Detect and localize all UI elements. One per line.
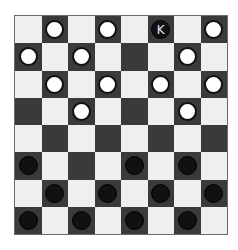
square-r5-c4[interactable]: [121, 152, 148, 179]
square-r3-c5: [148, 98, 175, 125]
white-piece[interactable]: [204, 75, 223, 94]
white-piece[interactable]: [72, 47, 91, 66]
white-piece[interactable]: [204, 20, 223, 39]
square-r5-c3: [95, 152, 122, 179]
square-r3-c0[interactable]: [15, 98, 42, 125]
square-r4-c2: [68, 125, 95, 152]
square-r7-c2[interactable]: [68, 207, 95, 234]
square-r1-c6[interactable]: [174, 43, 201, 70]
black-piece[interactable]: [45, 184, 64, 203]
square-r0-c3[interactable]: [95, 16, 122, 43]
white-piece[interactable]: [45, 75, 64, 94]
square-r2-c4: [121, 71, 148, 98]
white-piece[interactable]: [98, 20, 117, 39]
black-piece[interactable]: [125, 156, 144, 175]
square-r0-c6: [174, 16, 201, 43]
square-r4-c7[interactable]: [201, 125, 228, 152]
square-r6-c6: [174, 180, 201, 207]
square-r0-c7[interactable]: [201, 16, 228, 43]
square-r2-c6: [174, 71, 201, 98]
square-r6-c4: [121, 180, 148, 207]
black-piece[interactable]: [178, 211, 197, 230]
square-r7-c5: [148, 207, 175, 234]
square-r1-c1: [42, 43, 69, 70]
black-piece[interactable]: [125, 211, 144, 230]
black-piece[interactable]: [151, 184, 170, 203]
square-r6-c7[interactable]: [201, 180, 228, 207]
square-r4-c4: [121, 125, 148, 152]
square-r3-c2[interactable]: [68, 98, 95, 125]
square-r3-c6[interactable]: [174, 98, 201, 125]
square-r6-c3[interactable]: [95, 180, 122, 207]
square-r7-c7: [201, 207, 228, 234]
white-piece[interactable]: [178, 102, 197, 121]
black-piece[interactable]: [19, 156, 38, 175]
square-r0-c5[interactable]: K: [148, 16, 175, 43]
square-r3-c3: [95, 98, 122, 125]
square-r2-c5[interactable]: [148, 71, 175, 98]
white-piece[interactable]: [19, 47, 38, 66]
square-r6-c2: [68, 180, 95, 207]
square-r1-c2[interactable]: [68, 43, 95, 70]
square-r0-c2: [68, 16, 95, 43]
square-r1-c5: [148, 43, 175, 70]
square-r4-c3[interactable]: [95, 125, 122, 152]
square-r1-c7: [201, 43, 228, 70]
white-piece[interactable]: [98, 75, 117, 94]
square-r0-c1[interactable]: [42, 16, 69, 43]
square-r2-c1[interactable]: [42, 71, 69, 98]
white-piece[interactable]: [72, 102, 91, 121]
square-r5-c5: [148, 152, 175, 179]
square-r3-c1: [42, 98, 69, 125]
square-r3-c4[interactable]: [121, 98, 148, 125]
square-r2-c2: [68, 71, 95, 98]
square-r1-c3: [95, 43, 122, 70]
square-r1-c0[interactable]: [15, 43, 42, 70]
square-r3-c7: [201, 98, 228, 125]
square-r6-c0: [15, 180, 42, 207]
square-r5-c7: [201, 152, 228, 179]
white-piece[interactable]: [151, 75, 170, 94]
black-piece[interactable]: [72, 211, 91, 230]
square-r7-c3: [95, 207, 122, 234]
black-piece[interactable]: [98, 184, 117, 203]
square-r0-c4: [121, 16, 148, 43]
white-piece[interactable]: [178, 47, 197, 66]
square-r6-c5[interactable]: [148, 180, 175, 207]
square-r5-c6[interactable]: [174, 152, 201, 179]
square-r7-c0[interactable]: [15, 207, 42, 234]
square-r7-c4[interactable]: [121, 207, 148, 234]
square-r5-c0[interactable]: [15, 152, 42, 179]
king-label: K: [157, 24, 165, 36]
square-r6-c1[interactable]: [42, 180, 69, 207]
square-r7-c6[interactable]: [174, 207, 201, 234]
square-r2-c3[interactable]: [95, 71, 122, 98]
square-r2-c7[interactable]: [201, 71, 228, 98]
black-piece[interactable]: [178, 156, 197, 175]
square-r4-c1[interactable]: [42, 125, 69, 152]
black-piece[interactable]: [19, 211, 38, 230]
square-r4-c0: [15, 125, 42, 152]
square-r4-c6: [174, 125, 201, 152]
white-piece[interactable]: [45, 20, 64, 39]
square-r2-c0: [15, 71, 42, 98]
square-r1-c4[interactable]: [121, 43, 148, 70]
black-piece[interactable]: [204, 184, 223, 203]
square-r4-c5[interactable]: [148, 125, 175, 152]
square-r7-c1: [42, 207, 69, 234]
checkers-board: K: [14, 15, 228, 235]
square-r5-c2[interactable]: [68, 152, 95, 179]
square-r0-c0: [15, 16, 42, 43]
square-r5-c1: [42, 152, 69, 179]
black-king-piece[interactable]: K: [151, 20, 170, 39]
